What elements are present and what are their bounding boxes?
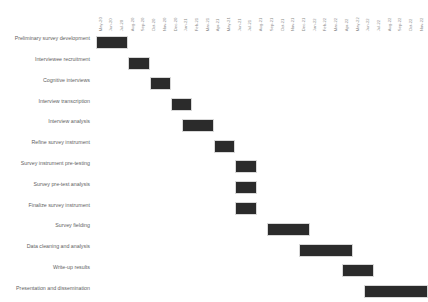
x-tick-label: Feb-22	[323, 18, 327, 31]
task-label: Write-up results	[0, 264, 90, 271]
task-label: Refine survey instrument	[0, 139, 90, 146]
x-tick-label: Jun-20	[109, 18, 113, 31]
x-tick-label: Sep-20	[141, 17, 145, 31]
gantt-row: Finalize survey instrument	[0, 198, 428, 219]
gantt-row: Survey fielding	[0, 219, 428, 240]
task-track	[96, 260, 428, 281]
gantt-bar[interactable]	[150, 77, 171, 90]
task-label: Interview analysis	[0, 118, 90, 125]
x-tick-label: Jul-20	[120, 20, 124, 31]
task-label: Survey instrument pre-testing	[0, 160, 90, 167]
x-tick-label: Nov-20	[163, 18, 167, 32]
task-label: Survey fielding	[0, 222, 90, 229]
x-tick-label: Nov-22	[420, 18, 424, 32]
gantt-row: Interview transcription	[0, 94, 428, 115]
task-label: Survey pre-test analysis	[0, 181, 90, 188]
task-label: Data cleaning and analysis	[0, 243, 90, 250]
x-tick-label: Nov-21	[291, 18, 295, 32]
gantt-row: Interview analysis	[0, 115, 428, 136]
x-tick-label: Jul-21	[248, 20, 252, 31]
task-label: Interview transcription	[0, 98, 90, 105]
task-track	[96, 32, 428, 53]
gantt-rows: Preliminary survey developmentInterviewe…	[0, 32, 428, 302]
x-tick-label: Jun-21	[238, 18, 242, 31]
task-label: Cognitive interviews	[0, 77, 90, 84]
gantt-row: Survey instrument pre-testing	[0, 157, 428, 178]
task-label: Presentation and dissemination	[0, 285, 90, 292]
x-tick-label: Jun-22	[366, 18, 370, 31]
gantt-row: Presentation and dissemination	[0, 281, 428, 302]
task-track	[96, 136, 428, 157]
task-track	[96, 115, 428, 136]
task-track	[96, 157, 428, 178]
x-tick-label: Oct-22	[409, 18, 413, 31]
x-tick-label: Aug-22	[388, 17, 392, 31]
gantt-chart: May-20Jun-20Jul-20Aug-20Sep-20Oct-20Nov-…	[0, 0, 428, 302]
task-track	[96, 177, 428, 198]
task-track	[96, 281, 428, 302]
task-track	[96, 219, 428, 240]
x-tick-label: Mar-22	[334, 18, 338, 31]
x-tick-label: May-21	[227, 17, 231, 31]
task-track	[96, 198, 428, 219]
task-track	[96, 53, 428, 74]
gantt-bar[interactable]	[364, 285, 428, 298]
gantt-bar[interactable]	[235, 160, 256, 173]
gantt-bar[interactable]	[214, 140, 235, 153]
x-tick-label: Dec-21	[302, 18, 306, 32]
x-tick-label: May-22	[355, 17, 359, 31]
task-track	[96, 74, 428, 95]
gantt-bar[interactable]	[96, 36, 128, 49]
task-label: Finalize survey instrument	[0, 202, 90, 209]
task-label: Interviewee recruitment	[0, 56, 90, 63]
gantt-row: Refine survey instrument	[0, 136, 428, 157]
x-tick-label: Sep-22	[398, 17, 402, 31]
x-tick-label: Mar-21	[205, 18, 209, 31]
gantt-bar[interactable]	[171, 98, 192, 111]
x-tick-label: Aug-20	[130, 17, 134, 31]
x-tick-label: Oct-20	[152, 18, 156, 31]
x-tick-label: May-20	[98, 17, 102, 31]
x-tick-label: Dec-20	[173, 18, 177, 32]
gantt-bar[interactable]	[299, 244, 353, 257]
gantt-bar[interactable]	[128, 57, 149, 70]
x-axis-month-ticks: May-20Jun-20Jul-20Aug-20Sep-20Oct-20Nov-…	[96, 0, 428, 32]
x-tick-label: Feb-21	[195, 18, 199, 31]
x-tick-label: Apr-22	[345, 18, 349, 31]
x-tick-label: Jan-21	[184, 18, 188, 31]
gantt-bar[interactable]	[235, 202, 256, 215]
gantt-bar[interactable]	[267, 223, 310, 236]
x-tick-label: Jul-22	[377, 20, 381, 31]
task-label: Preliminary survey development	[0, 35, 90, 42]
x-tick-label: Aug-21	[259, 17, 263, 31]
gantt-row: Preliminary survey development	[0, 32, 428, 53]
x-tick-label: Oct-21	[280, 18, 284, 31]
gantt-bar[interactable]	[342, 264, 374, 277]
gantt-bar[interactable]	[182, 119, 214, 132]
x-tick-label: Apr-21	[216, 18, 220, 31]
gantt-bar[interactable]	[235, 181, 256, 194]
gantt-row: Write-up results	[0, 260, 428, 281]
gantt-row: Data cleaning and analysis	[0, 240, 428, 261]
task-track	[96, 94, 428, 115]
x-tick-label: Sep-21	[270, 17, 274, 31]
task-track	[96, 240, 428, 261]
gantt-row: Survey pre-test analysis	[0, 177, 428, 198]
gantt-row: Interviewee recruitment	[0, 53, 428, 74]
x-tick-label: Jan-22	[313, 18, 317, 31]
gantt-row: Cognitive interviews	[0, 74, 428, 95]
